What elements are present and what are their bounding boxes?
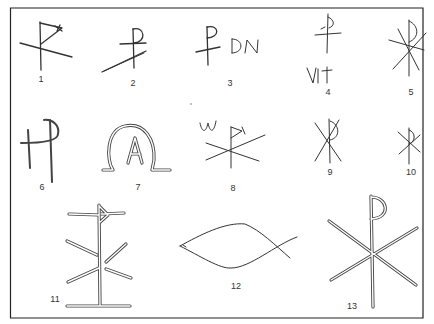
symbol-12-fish	[180, 224, 297, 268]
label-13: 13	[347, 302, 357, 311]
label-2: 2	[130, 79, 135, 88]
symbol-8-chi-rho-w	[200, 121, 265, 168]
symbol-13-chi-rho-large	[329, 196, 417, 307]
symbol-1-chi-rho-cross	[20, 22, 72, 70]
label-1: 1	[38, 75, 43, 84]
figure-frame-border	[11, 8, 424, 318]
label-6: 6	[39, 183, 44, 192]
symbol-6-h-rho	[21, 120, 58, 182]
symbol-10-chi-rho-small	[398, 128, 420, 164]
label-10: 10	[406, 168, 416, 177]
label-11: 11	[50, 295, 59, 304]
label-3: 3	[227, 79, 232, 88]
symbol-5-chi-rho-star	[389, 20, 426, 76]
symbol-11-tree-staurogram	[67, 205, 131, 306]
symbol-9-chi-rho	[315, 119, 341, 163]
label-8: 8	[230, 184, 235, 193]
label-12: 12	[231, 282, 241, 291]
label-4: 4	[325, 88, 330, 97]
symbol-3-rho-dn	[196, 27, 258, 65]
label-9: 9	[327, 168, 332, 177]
symbols-figure	[0, 0, 434, 324]
symbol-4-rho-cross-vit	[307, 14, 341, 83]
label-7: 7	[135, 183, 140, 192]
label-5: 5	[408, 88, 413, 97]
symbol-2-rho-staurogram	[102, 29, 146, 72]
scan-speck	[190, 103, 192, 105]
symbol-7-omega-alpha	[103, 125, 170, 170]
